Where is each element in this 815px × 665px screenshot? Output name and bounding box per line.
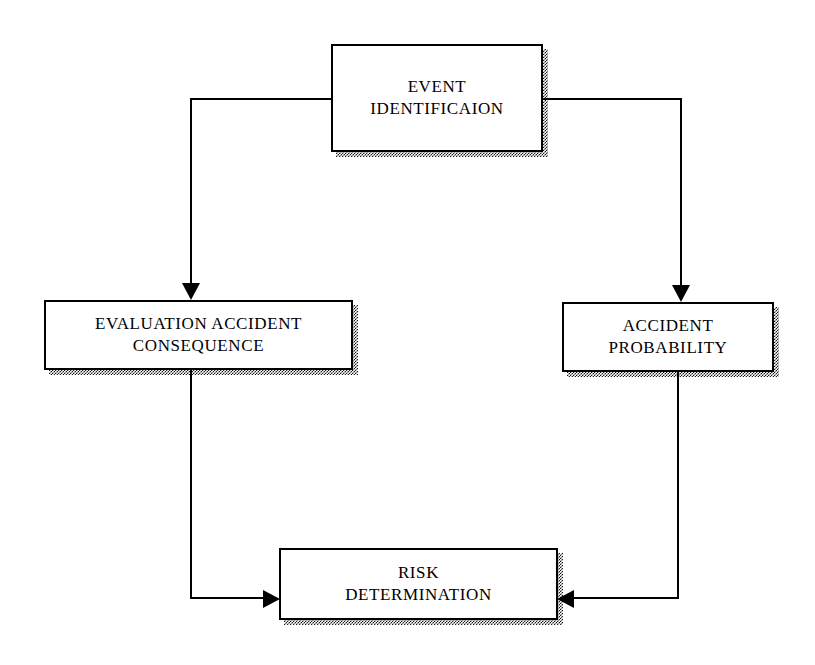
node-risk-determination-label: RISK DETERMINATION (345, 562, 492, 607)
edge-evaluation-to-risk-vertical (190, 368, 192, 599)
arrowhead-right-risk (263, 590, 280, 608)
node-evaluation-accident-consequence[interactable]: EVALUATION ACCIDENT CONSEQUENCE (44, 300, 353, 370)
arrowhead-down-probability (672, 285, 690, 302)
edge-event-to-probability-vertical (680, 98, 682, 286)
edge-probability-to-risk-horizontal (574, 597, 679, 599)
node-event-identification[interactable]: EVENT IDENTIFICAION (331, 44, 543, 152)
node-event-identification-label: EVENT IDENTIFICAION (370, 76, 503, 121)
edge-event-to-evaluation-vertical (190, 98, 192, 284)
arrowhead-down-evaluation (182, 283, 200, 300)
edge-event-to-evaluation-horizontal (190, 98, 333, 100)
arrowhead-left-risk (557, 590, 574, 608)
node-risk-determination[interactable]: RISK DETERMINATION (279, 548, 558, 620)
node-accident-probability[interactable]: ACCIDENT PROBABILITY (562, 302, 774, 372)
node-accident-probability-label: ACCIDENT PROBABILITY (609, 315, 728, 360)
edge-event-to-probability-horizontal (541, 98, 682, 100)
node-evaluation-accident-consequence-label: EVALUATION ACCIDENT CONSEQUENCE (95, 313, 302, 358)
diagram-canvas: EVENT IDENTIFICAION EVALUATION ACCIDENT … (0, 0, 815, 665)
edge-evaluation-to-risk-horizontal (190, 597, 265, 599)
edge-probability-to-risk-vertical (677, 370, 679, 599)
